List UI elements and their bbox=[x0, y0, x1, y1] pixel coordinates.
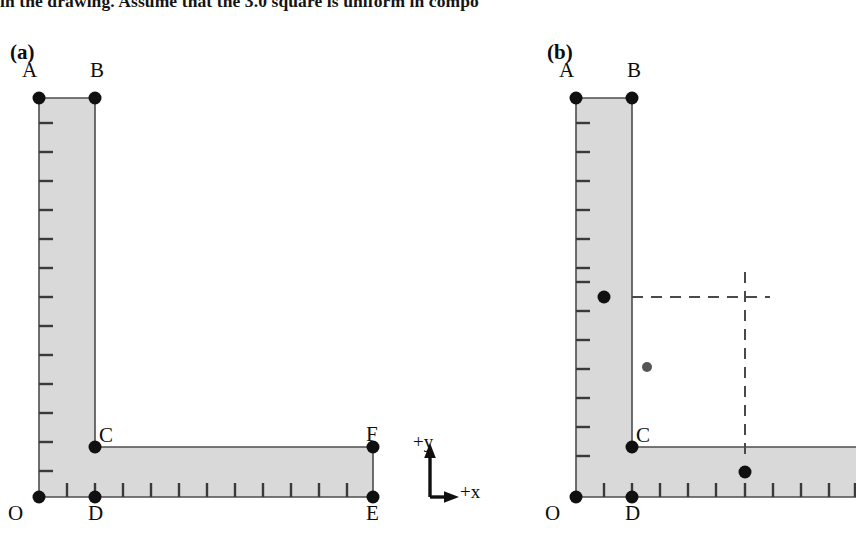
coordinate-axis-indicator bbox=[424, 443, 459, 503]
panel-b-vertex-C-dot bbox=[626, 441, 639, 454]
panel-a-vertex-D-dot bbox=[89, 491, 102, 504]
panel-a-vertex-E-dot bbox=[367, 491, 380, 504]
vertical-arm-com-dot bbox=[598, 291, 611, 304]
panel-b-vertex-A-dot bbox=[570, 92, 583, 105]
combined-com-dot bbox=[642, 362, 652, 372]
panel-b-vertex-O-dot bbox=[570, 491, 583, 504]
panel-b-vertex-B-dot bbox=[626, 92, 639, 105]
panel-a-vertex-B-dot bbox=[89, 92, 102, 105]
panel-a-vertex-C-dot bbox=[89, 441, 102, 454]
panel-a-vertex-O-dot bbox=[33, 491, 46, 504]
panel-a-plate bbox=[39, 98, 373, 497]
panel-b-dashed-guides bbox=[632, 272, 770, 455]
figure-vector-layer bbox=[0, 0, 856, 539]
panel-b-vertex-D-dot bbox=[626, 491, 639, 504]
axis-x-arrowhead bbox=[444, 491, 459, 503]
panel-a-l-plate bbox=[39, 98, 373, 497]
figure-root: in the drawing. Assume that the 3.0 squa… bbox=[0, 0, 856, 539]
horizontal-arm-com-dot bbox=[739, 466, 752, 479]
axis-y-arrowhead bbox=[424, 443, 436, 458]
panel-a-vertex-A-dot bbox=[33, 92, 46, 105]
panel-a-vertex-F-dot bbox=[367, 441, 380, 454]
